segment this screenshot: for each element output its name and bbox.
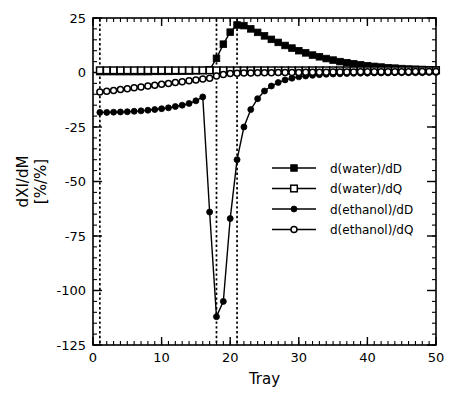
data-point-marker [131, 108, 137, 114]
data-point-marker [282, 70, 288, 76]
data-point-marker [309, 52, 316, 59]
data-point-marker [234, 70, 240, 76]
data-point-marker [268, 70, 274, 76]
data-point-marker [207, 75, 213, 81]
legend-label: d(water)/dQ [330, 182, 402, 196]
legend-label: d(water)/dD [330, 162, 402, 176]
data-point-marker [220, 298, 226, 304]
data-point-marker [330, 57, 337, 64]
data-point-marker [193, 67, 200, 74]
legend-label: d(ethanol)/dQ [330, 223, 413, 237]
data-point-marker [255, 96, 261, 102]
data-point-marker [220, 71, 226, 77]
data-point-marker [316, 69, 322, 75]
figure-background [0, 0, 453, 394]
data-point-marker [200, 94, 206, 100]
data-point-marker [97, 67, 104, 74]
data-point-marker [152, 82, 158, 88]
y-tick-label: -100 [56, 283, 86, 298]
data-point-marker [426, 68, 432, 74]
data-point-marker [138, 108, 144, 114]
data-point-marker [255, 70, 261, 76]
data-point-marker [117, 67, 124, 74]
data-point-marker [145, 67, 152, 74]
data-point-marker [158, 67, 165, 74]
data-point-marker [165, 105, 171, 111]
data-point-marker [248, 70, 254, 76]
data-point-marker [268, 36, 275, 43]
data-point-marker [358, 69, 364, 75]
data-point-marker [351, 69, 357, 75]
data-point-marker [220, 41, 227, 48]
data-point-marker [282, 77, 288, 83]
data-point-marker [111, 87, 117, 93]
data-point-marker [262, 70, 268, 76]
y-tick-label: 25 [69, 11, 86, 26]
data-point-marker [200, 76, 206, 82]
data-point-marker [323, 69, 329, 75]
data-point-marker [262, 88, 268, 94]
data-point-marker [97, 109, 103, 115]
data-point-marker [145, 83, 151, 89]
legend-label: d(ethanol)/dD [330, 203, 413, 217]
x-tick-label: 20 [222, 350, 239, 365]
data-point-marker [385, 69, 391, 75]
y-tick-label: -50 [65, 174, 86, 189]
data-point-marker [172, 67, 179, 74]
data-point-marker [104, 88, 110, 94]
data-point-marker [124, 67, 131, 74]
data-point-marker [261, 33, 268, 40]
data-point-marker [145, 107, 151, 113]
data-point-marker [323, 55, 330, 62]
data-point-marker [248, 107, 254, 113]
data-point-marker [241, 70, 247, 76]
data-point-marker [227, 29, 234, 36]
data-point-marker [268, 83, 274, 89]
data-point-marker [159, 106, 165, 112]
x-axis-title: Tray [248, 370, 280, 388]
data-point-marker [103, 67, 110, 74]
chart-canvas: 01020304050 250-25-50-75-100-125 d(water… [0, 0, 453, 394]
chart-figure: 01020304050 250-25-50-75-100-125 d(water… [0, 0, 453, 394]
data-point-marker [138, 67, 145, 74]
x-tick-label: 0 [89, 350, 97, 365]
data-point-marker [138, 84, 144, 90]
data-point-marker [234, 22, 241, 29]
data-point-marker [124, 86, 130, 92]
data-point-marker [364, 69, 370, 75]
data-point-marker [227, 216, 233, 222]
y-tick-label: -25 [65, 120, 86, 135]
data-point-marker [213, 55, 220, 62]
data-point-marker [378, 69, 384, 75]
data-point-marker [303, 69, 309, 75]
data-point-marker [316, 54, 323, 61]
y-tick-label: -75 [65, 229, 86, 244]
data-point-marker [296, 47, 303, 54]
data-point-marker [350, 60, 357, 67]
data-point-marker [344, 69, 350, 75]
data-point-marker [186, 78, 192, 84]
data-point-marker [172, 104, 178, 110]
data-point-marker [179, 67, 186, 74]
data-point-marker [291, 165, 298, 172]
data-point-marker [207, 209, 213, 215]
data-point-marker [337, 69, 343, 75]
data-point-marker [151, 67, 158, 74]
data-point-marker [291, 185, 298, 192]
data-point-marker [337, 58, 344, 65]
data-point-marker [172, 80, 178, 86]
data-point-marker [399, 69, 405, 75]
data-point-marker [275, 70, 281, 76]
data-point-marker [291, 206, 297, 212]
data-point-marker [291, 227, 297, 233]
data-point-marker [330, 69, 336, 75]
y-tick-label: 0 [78, 65, 86, 80]
data-point-marker [131, 67, 138, 74]
data-point-marker [247, 26, 254, 33]
data-point-marker [131, 85, 137, 91]
y-axis-title: dXI/dM [14, 156, 32, 208]
data-point-marker [104, 109, 110, 115]
data-point-marker [199, 67, 206, 74]
data-point-marker [193, 77, 199, 83]
data-point-marker [275, 39, 282, 46]
